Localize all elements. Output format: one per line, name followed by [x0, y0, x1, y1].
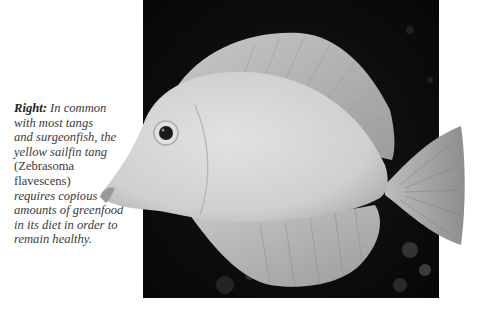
fish-eye: [154, 121, 178, 145]
fish-photo: [0, 0, 485, 312]
